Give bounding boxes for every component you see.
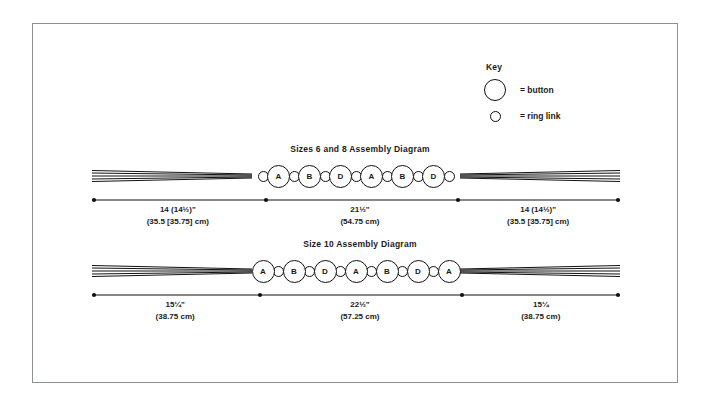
strap-assembly-row: ABDABD (0, 159, 712, 193)
measurement-inches: 21½" (264, 204, 457, 216)
assembly-diagram-sizes-6-and-8: Sizes 6 and 8 Assembly Diagram (0, 144, 712, 234)
measurement-segment: 22½"(57.25 cm) (258, 299, 461, 323)
button-b: B (283, 260, 306, 283)
measurement-inches: 15¼" (92, 299, 258, 311)
measurement-inches: 15¼ (462, 299, 620, 311)
assembly-diagram-size-10: Size 10 Assembly Diagram (0, 239, 712, 329)
key-label-button: = button (520, 85, 554, 95)
key-label-ring-link: = ring link (520, 111, 560, 121)
measurement-inches: 14 (14½)" (92, 204, 264, 216)
measurement-centimeters: (35.5 [35.75] cm) (456, 216, 620, 228)
measurement-segment: 14 (14½)"(35.5 [35.75] cm) (456, 204, 620, 228)
measurement-labels: 15¼"(38.75 cm)22½"(57.25 cm)15¼(38.75 cm… (92, 299, 620, 323)
measurement-centimeters: (38.75 cm) (92, 311, 258, 323)
diagram-title: Size 10 Assembly Diagram (0, 239, 712, 249)
strap-assembly-row: ABDABDA (0, 254, 712, 288)
button-d: D (422, 165, 445, 188)
key-row-ring-link: = ring link (478, 103, 608, 129)
measurement-labels: 14 (14½)"(35.5 [35.75] cm)21½"(54.75 cm)… (92, 204, 620, 228)
ring-link (444, 171, 455, 182)
button-a: A (267, 165, 290, 188)
button-d: D (314, 260, 337, 283)
measurement-ruler: 14 (14½)"(35.5 [35.75] cm)21½"(54.75 cm)… (0, 196, 712, 234)
measurement-centimeters: (57.25 cm) (258, 311, 461, 323)
measurement-ruler: 15¼"(38.75 cm)22½"(57.25 cm)15¼(38.75 cm… (0, 291, 712, 329)
button-b: B (376, 260, 399, 283)
measurement-centimeters: (35.5 [35.75] cm) (92, 216, 264, 228)
small-circle-icon (478, 111, 512, 122)
button-a: A (360, 165, 383, 188)
button-a: A (252, 260, 275, 283)
key-legend: Key = button = ring link (478, 62, 608, 129)
diagram-title: Sizes 6 and 8 Assembly Diagram (0, 144, 712, 154)
bead-chain: ABDABDA (0, 254, 712, 288)
measurement-segment: 15¼"(38.75 cm) (92, 299, 258, 323)
button-d: D (329, 165, 352, 188)
key-title: Key (486, 62, 608, 72)
key-row-button: = button (478, 77, 608, 103)
measurement-segment: 14 (14½)"(35.5 [35.75] cm) (92, 204, 264, 228)
measurement-centimeters: (38.75 cm) (462, 311, 620, 323)
button-a: A (345, 260, 368, 283)
button-d: D (407, 260, 430, 283)
diagram-canvas: Key = button = ring link Sizes 6 and 8 A… (0, 0, 712, 407)
measurement-inches: 22½" (258, 299, 461, 311)
button-a: A (438, 260, 461, 283)
measurement-segment: 15¼(38.75 cm) (462, 299, 620, 323)
bead-chain: ABDABD (0, 159, 712, 193)
button-b: B (298, 165, 321, 188)
measurement-segment: 21½"(54.75 cm) (264, 204, 457, 228)
measurement-centimeters: (54.75 cm) (264, 216, 457, 228)
large-circle-icon (478, 79, 512, 101)
button-b: B (391, 165, 414, 188)
measurement-inches: 14 (14½)" (456, 204, 620, 216)
